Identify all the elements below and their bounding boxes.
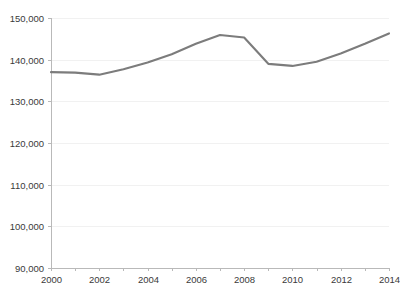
- x-axis-tick-label: 2004: [138, 274, 159, 285]
- x-axis-tick-label: 2012: [331, 274, 352, 285]
- y-axis-tick-label: 90,000: [15, 263, 44, 274]
- x-axis-tick-label: 2000: [41, 274, 62, 285]
- x-axis-tick-label: 2002: [89, 274, 110, 285]
- line-chart: 90,000100,000110,000120,000130,000140,00…: [0, 0, 400, 301]
- x-axis-tick-label: 2006: [186, 274, 207, 285]
- chart-canvas: 90,000100,000110,000120,000130,000140,00…: [0, 0, 400, 301]
- y-axis-tick-label: 130,000: [10, 96, 44, 107]
- y-axis-tick-label: 100,000: [10, 221, 44, 232]
- chart-background: [0, 0, 400, 301]
- y-axis-tick-label: 140,000: [10, 55, 44, 66]
- y-axis-tick-label: 150,000: [10, 13, 44, 24]
- x-axis-tick-label: 2014: [379, 274, 400, 285]
- y-axis-tick-label: 110,000: [10, 180, 44, 191]
- x-axis-tick-label: 2010: [282, 274, 303, 285]
- y-axis-tick-label: 120,000: [10, 138, 44, 149]
- x-axis-tick-label: 2008: [234, 274, 255, 285]
